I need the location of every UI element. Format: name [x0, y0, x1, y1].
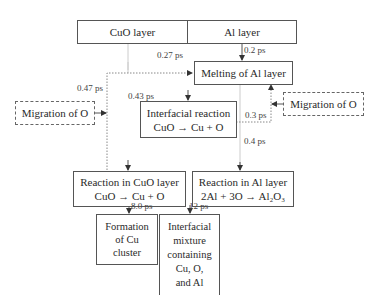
cuo-layer-label: CuO layer	[110, 25, 156, 39]
cuo-layer-box: CuO layer	[77, 20, 188, 44]
formation-cu-cluster-box: Formation of Cu cluster	[96, 214, 158, 265]
formation-line1: Formation	[105, 220, 149, 233]
migration-o-left-box: Migration of O	[15, 101, 95, 125]
mixture-line4: Cu, O,	[176, 262, 204, 276]
formation-line3: cluster	[113, 246, 141, 259]
al-layer-label: Al layer	[224, 25, 260, 39]
migration-o-right-box: Migration of O	[283, 92, 364, 116]
interfacial-mixture-box: Interfacial mixture containing Cu, O, an…	[159, 214, 220, 295]
time-label-12ps: 12 ps	[189, 201, 208, 211]
interfacial-reaction-equation: CuO → Cu + O	[154, 120, 224, 134]
interfacial-reaction-box: Interfacial reaction CuO → Cu + O	[140, 101, 237, 138]
mixture-line3: containing	[167, 248, 211, 262]
migration-o-left-label: Migration of O	[22, 106, 89, 120]
time-label-0-4ps: 0.4 ps	[244, 136, 266, 146]
time-label-0-47ps: 0.47 ps	[77, 83, 103, 93]
interfacial-reaction-title: Interfacial reaction	[147, 106, 230, 120]
mixture-line1: Interfacial	[168, 220, 211, 234]
melting-al-label: Melting of Al layer	[201, 66, 286, 80]
mixture-line2: mixture	[173, 234, 206, 248]
reaction-cuo-box: Reaction in CuO layer CuO → Cu + O	[73, 171, 186, 207]
time-label-0-43ps: 0.43 ps	[128, 91, 154, 101]
mixture-line5: and Al	[176, 276, 204, 290]
migration-o-right-label: Migration of O	[290, 97, 357, 111]
al-layer-box: Al layer	[187, 20, 297, 44]
time-label-0-2ps: 0.2 ps	[244, 45, 266, 55]
reaction-cuo-title: Reaction in CuO layer	[80, 175, 179, 189]
reaction-al-title: Reaction in Al layer	[199, 175, 287, 189]
melting-al-box: Melting of Al layer	[194, 61, 293, 85]
formation-line2: of Cu	[115, 233, 139, 246]
reaction-al-equation: 2Al + 3O → Al₂O₃	[201, 189, 285, 203]
time-label-0-3ps: 0.3 ps	[245, 110, 267, 120]
reaction-cuo-equation: CuO → Cu + O	[95, 189, 165, 203]
time-label-0-27ps: 0.27 ps	[157, 50, 183, 60]
time-label-8-0ps: 8.0 ps	[131, 201, 153, 211]
